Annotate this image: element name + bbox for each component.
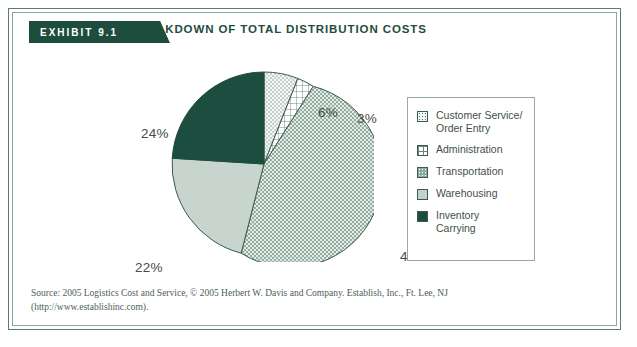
chart-area: 6% 3% 45% 22% 24% Customer Service/ Orde…: [29, 53, 604, 268]
pie-chart-svg: [164, 67, 374, 262]
legend-swatch-icon: [417, 111, 428, 122]
legend-item-label: Customer Service/ Order Entry: [436, 109, 522, 134]
exhibit-frame: EXHIBIT 9.1 BREAKDOWN OF TOTAL DISTRIBUT…: [8, 8, 621, 330]
legend-swatch-icon: [417, 167, 428, 178]
legend-item-label: Transportation: [436, 165, 503, 178]
legend-item: Warehousing: [417, 187, 534, 200]
legend-item: Customer Service/ Order Entry: [417, 109, 534, 134]
legend-swatch-icon: [417, 189, 428, 200]
legend-swatch-icon: [417, 211, 428, 222]
pie-slice-inventory-carrying: [172, 72, 264, 164]
pie-label-administration: 3%: [357, 111, 377, 126]
legend-item-label: Warehousing: [436, 187, 497, 200]
legend-item: Inventory Carrying: [417, 209, 534, 234]
legend-item-label: Administration: [436, 143, 503, 156]
exhibit-title: BREAKDOWN OF TOTAL DISTRIBUTION COSTS: [129, 23, 427, 35]
legend-item: Administration: [417, 143, 534, 156]
legend-item-label: Inventory Carrying: [436, 209, 479, 234]
pie-label-inventory-carrying: 24%: [141, 126, 169, 141]
legend-item: Transportation: [417, 165, 534, 178]
pie-chart: [164, 67, 374, 262]
chart-legend: Customer Service/ Order Entry Administra…: [407, 97, 535, 261]
pie-label-warehousing: 22%: [135, 260, 163, 275]
pie-label-customer-service: 6%: [318, 105, 338, 120]
legend-swatch-icon: [417, 145, 428, 156]
source-note: Source: 2005 Logistics Cost and Service,…: [31, 286, 551, 314]
